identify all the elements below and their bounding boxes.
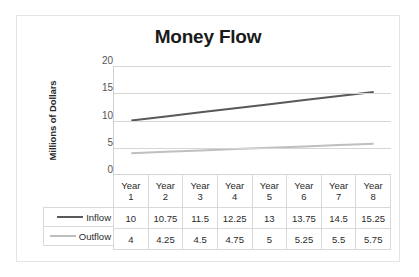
cell-inflow-year-8: 15.25	[356, 208, 391, 229]
y-tick-label-0: 0	[87, 165, 113, 175]
table-row: 44.254.54.7555.255.55.75	[114, 229, 391, 250]
legend-line-swatch-inflow	[57, 216, 83, 218]
y-axis-tick-labels: 20151050	[87, 61, 113, 175]
cell-inflow-year-1: 10	[114, 208, 149, 229]
table-header-row: Year1Year2Year3Year4Year5Year6Year7Year8	[114, 175, 391, 208]
gridline-5	[114, 148, 391, 149]
cell-outflow-year-4: 4.75	[217, 229, 252, 250]
cell-inflow-year-4: 12.25	[217, 208, 252, 229]
cell-outflow-year-6: 5.25	[287, 229, 322, 250]
legend-line-swatch-outflow	[50, 235, 76, 237]
legend: InflowOutflow	[43, 207, 113, 246]
gridline-10	[114, 121, 391, 122]
cell-inflow-year-3: 11.5	[183, 208, 218, 229]
chart-container: Money Flow Millions of Dollars 20151050 …	[16, 15, 400, 262]
cell-outflow-year-2: 4.25	[148, 229, 183, 250]
column-header-year-8: Year8	[356, 175, 391, 208]
y-tick-label-20: 20	[87, 56, 113, 66]
cell-inflow-year-6: 13.75	[287, 208, 322, 229]
cell-outflow-year-1: 4	[114, 229, 149, 250]
legend-item-inflow: Inflow	[43, 207, 113, 227]
plot-area	[113, 66, 391, 175]
gridline-15	[114, 93, 391, 94]
gridline-20	[114, 66, 391, 67]
cell-outflow-year-3: 4.5	[183, 229, 218, 250]
cell-outflow-year-7: 5.5	[321, 229, 356, 250]
column-header-year-7: Year7	[321, 175, 356, 208]
y-axis-title: Millions of Dollars	[47, 63, 61, 178]
column-header-year-6: Year6	[287, 175, 322, 208]
cell-inflow-year-2: 10.75	[148, 208, 183, 229]
y-tick-label-10: 10	[87, 111, 113, 121]
series-line-inflow	[131, 92, 373, 121]
y-tick-label-5: 5	[87, 138, 113, 148]
table-row: 1010.7511.512.251313.7514.515.25	[114, 208, 391, 229]
column-header-year-1: Year1	[114, 175, 149, 208]
column-header-year-2: Year2	[148, 175, 183, 208]
data-table: Year1Year2Year3Year4Year5Year6Year7Year8…	[113, 175, 391, 250]
column-header-year-3: Year3	[183, 175, 218, 208]
column-header-year-4: Year4	[217, 175, 252, 208]
column-header-year-5: Year5	[252, 175, 287, 208]
legend-label-inflow: Inflow	[86, 212, 111, 223]
cell-inflow-year-7: 14.5	[321, 208, 356, 229]
cell-outflow-year-8: 5.75	[356, 229, 391, 250]
cell-inflow-year-5: 13	[252, 208, 287, 229]
legend-item-outflow: Outflow	[43, 226, 113, 246]
y-tick-label-15: 15	[87, 83, 113, 93]
legend-label-outflow: Outflow	[79, 231, 111, 242]
cell-outflow-year-5: 5	[252, 229, 287, 250]
chart-title: Money Flow	[17, 26, 399, 48]
